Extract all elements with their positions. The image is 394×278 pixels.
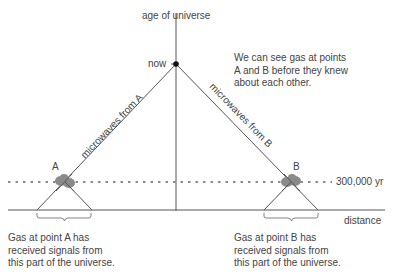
point-b-label: B	[293, 161, 300, 173]
note-text: We can see gas at points A and B before …	[234, 52, 348, 90]
point-a-label: A	[52, 161, 59, 173]
caption-a: Gas at point A has received signals from…	[8, 232, 115, 270]
x-axis-label: distance	[344, 215, 381, 227]
now-label: now	[148, 58, 166, 70]
ray-b-label: microwaves from B	[208, 81, 275, 150]
ray-a-label: microwaves from A	[78, 91, 144, 160]
time-marker-label: 300,000 yr	[336, 176, 383, 188]
brace-a	[37, 213, 91, 221]
brace-b	[264, 213, 318, 221]
caption-b: Gas at point B has received signals from…	[234, 232, 341, 270]
gas-blob-b	[281, 174, 301, 187]
now-dot	[173, 61, 179, 67]
y-axis-label: age of universe	[142, 10, 210, 22]
